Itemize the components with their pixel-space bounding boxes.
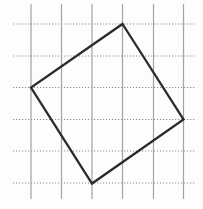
diagram-canvas	[0, 0, 203, 209]
grid-diagram-svg	[0, 0, 203, 209]
tilted-square	[31, 24, 184, 184]
